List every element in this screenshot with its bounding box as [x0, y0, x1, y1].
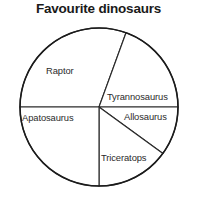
slice-label-apatosaurus: Apatosaurus — [22, 113, 74, 122]
slice-label-raptor: Raptor — [46, 66, 74, 75]
pie-chart-figure: Favourite dinosaurs Raptor Tyrannosaurus… — [0, 0, 197, 216]
slice-label-triceratops: Triceratops — [101, 153, 146, 162]
pie-chart-graphic — [0, 0, 197, 216]
slice-label-allosaurus: Allosaurus — [124, 112, 167, 121]
slice-label-tyrannosaurus: Tyrannosaurus — [107, 92, 168, 101]
